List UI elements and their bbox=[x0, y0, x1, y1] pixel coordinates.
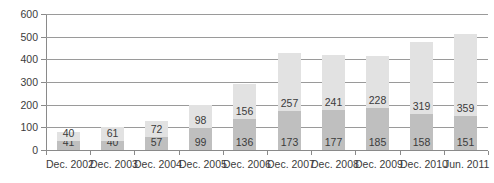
bar-segment-upper: 241 bbox=[322, 55, 345, 110]
x-tick bbox=[444, 151, 445, 155]
bar-value-label-lower: 136 bbox=[233, 137, 256, 148]
y-axis-tick-label: 0 bbox=[0, 145, 38, 155]
x-axis-category-label: Dec. 2006 bbox=[223, 159, 267, 170]
bar-value-label-lower: 99 bbox=[189, 137, 212, 148]
bar-value-label-upper: 61 bbox=[101, 128, 124, 139]
x-axis-category-label: Dec. 2003 bbox=[90, 159, 134, 170]
bar-segment-upper: 98 bbox=[189, 105, 212, 127]
bar-value-label-lower: 151 bbox=[454, 137, 477, 148]
bar-segment-lower: 136 bbox=[233, 119, 256, 150]
bar-group: 177241 bbox=[322, 55, 345, 150]
x-tick bbox=[311, 151, 312, 155]
bar-value-label-lower: 185 bbox=[366, 137, 389, 148]
bar-segment-lower: 151 bbox=[454, 116, 477, 150]
x-axis-category-label: Dec. 2009 bbox=[355, 159, 399, 170]
bar-value-label-upper: 228 bbox=[366, 95, 389, 106]
bar-segment-lower: 40 bbox=[101, 141, 124, 150]
bar-segment-lower: 41 bbox=[57, 141, 80, 150]
bar-group: 5772 bbox=[145, 121, 168, 150]
bar-value-label-upper: 98 bbox=[189, 115, 212, 126]
bar-segment-lower: 99 bbox=[189, 128, 212, 150]
bar-value-label-upper: 241 bbox=[322, 97, 345, 108]
bar-group: 4061 bbox=[101, 127, 124, 150]
bar-value-label-lower: 177 bbox=[322, 137, 345, 148]
x-axis-category-label: Dec. 2010 bbox=[400, 159, 444, 170]
x-tick bbox=[90, 151, 91, 155]
y-axis-tick-label: 400 bbox=[0, 54, 38, 64]
bar-segment-upper: 72 bbox=[145, 121, 168, 137]
bar-group: 4140 bbox=[57, 132, 80, 150]
bar-segment-upper: 156 bbox=[233, 84, 256, 119]
bar-group: 185228 bbox=[366, 56, 389, 150]
x-axis-category-label: Dec. 2004 bbox=[134, 159, 178, 170]
x-axis-category-label: Dec. 2005 bbox=[179, 159, 223, 170]
y-axis-tick-label: 200 bbox=[0, 100, 38, 110]
x-axis-category-label: Dec. 2008 bbox=[311, 159, 355, 170]
bar-value-label-upper: 40 bbox=[57, 128, 80, 139]
bar-value-label-upper: 359 bbox=[454, 103, 477, 114]
bar-segment-upper: 40 bbox=[57, 132, 80, 141]
x-tick bbox=[134, 151, 135, 155]
bar-value-label-lower: 158 bbox=[410, 137, 433, 148]
bar-segment-lower: 158 bbox=[410, 114, 433, 150]
x-tick bbox=[267, 151, 268, 155]
bar-group: 151359 bbox=[454, 34, 477, 150]
bar-segment-lower: 177 bbox=[322, 110, 345, 150]
y-axis-tick-label: 300 bbox=[0, 77, 38, 87]
bar-value-label-upper: 319 bbox=[410, 101, 433, 112]
x-axis-category-label: Dec. 2002 bbox=[46, 159, 90, 170]
bar-value-label-lower: 57 bbox=[145, 137, 168, 148]
bar-value-label-upper: 72 bbox=[145, 124, 168, 135]
plot-area: 4140406157729998136156173257177241185228… bbox=[46, 14, 488, 150]
x-tick bbox=[46, 151, 47, 155]
x-tick bbox=[179, 151, 180, 155]
bar-group: 136156 bbox=[233, 84, 256, 150]
bar-segment-upper: 228 bbox=[366, 56, 389, 108]
bar-segment-upper: 359 bbox=[454, 34, 477, 115]
y-axis-tick-label: 600 bbox=[0, 9, 38, 19]
bar-group: 173257 bbox=[278, 53, 301, 150]
x-tick bbox=[488, 151, 489, 155]
bar-value-label-lower: 173 bbox=[278, 137, 301, 148]
bar-value-label-upper: 156 bbox=[233, 106, 256, 117]
y-axis-tick-label: 500 bbox=[0, 32, 38, 42]
stacked-bar-chart: 0100200300400500600 41404061577299981361… bbox=[0, 0, 494, 183]
x-axis-category-label: Dec. 2007 bbox=[267, 159, 311, 170]
bar-segment-lower: 57 bbox=[145, 137, 168, 150]
y-axis-tick-label: 100 bbox=[0, 122, 38, 132]
bar-segment-lower: 185 bbox=[366, 108, 389, 150]
x-axis-category-label: Jun. 2011 bbox=[444, 159, 488, 170]
x-tick bbox=[223, 151, 224, 155]
bar-group: 9998 bbox=[189, 105, 212, 150]
bar-segment-upper: 319 bbox=[410, 42, 433, 114]
bar-value-label-upper: 257 bbox=[278, 98, 301, 109]
x-tick bbox=[355, 151, 356, 155]
bar-group: 158319 bbox=[410, 42, 433, 150]
x-tick bbox=[400, 151, 401, 155]
bar-segment-upper: 257 bbox=[278, 53, 301, 111]
bar-segment-upper: 61 bbox=[101, 127, 124, 141]
bar-segment-lower: 173 bbox=[278, 111, 301, 150]
